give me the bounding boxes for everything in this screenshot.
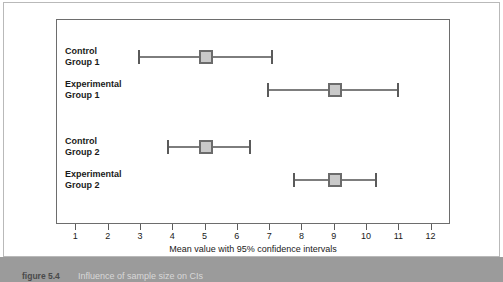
x-tick [108, 224, 109, 230]
x-tick [172, 224, 173, 230]
plot-frame: ControlGroup 1ExperimentalGroup 1Control… [56, 19, 450, 224]
error-bar [293, 171, 377, 189]
x-tick [269, 224, 270, 230]
x-tick [75, 224, 76, 230]
x-tick-label: 11 [394, 231, 403, 241]
x-tick-label: 9 [331, 231, 336, 241]
mean-marker [199, 140, 213, 154]
category-label: ExperimentalGroup 2 [65, 169, 122, 191]
x-tick [431, 224, 432, 230]
error-bar [138, 48, 274, 66]
figure-panel: ControlGroup 1ExperimentalGroup 1Control… [3, 2, 500, 257]
x-tick-label: 8 [299, 231, 304, 241]
category-label-line1: Control [65, 46, 97, 56]
error-bar [167, 138, 251, 156]
category-label-line1: Experimental [65, 169, 122, 179]
error-bar-cap-low [267, 83, 269, 97]
category-label: ExperimentalGroup 1 [65, 79, 122, 101]
x-tick-label: 1 [73, 231, 78, 241]
x-axis-title: Mean value with 95% confidence intervals [56, 244, 450, 254]
figure-caption-text: Influence of sample size on CIs [78, 271, 203, 281]
error-bar [267, 81, 399, 99]
x-tick [366, 224, 367, 230]
x-tick-label: 6 [234, 231, 239, 241]
category-label-line2: Group 1 [65, 90, 122, 101]
category-label-line2: Group 2 [65, 147, 100, 158]
x-tick-label: 7 [267, 231, 272, 241]
x-tick-label: 12 [426, 231, 436, 241]
error-bar-cap-low [167, 140, 169, 154]
x-axis: Mean value with 95% confidence intervals… [56, 224, 450, 258]
mean-marker [328, 83, 342, 97]
error-bar-cap-low [138, 50, 140, 64]
x-tick [301, 224, 302, 230]
category-label-line1: Experimental [65, 79, 122, 89]
x-tick [334, 224, 335, 230]
mean-marker [199, 50, 213, 64]
error-bar-cap-low [293, 173, 295, 187]
category-label-line1: Control [65, 136, 97, 146]
error-bar-cap-high [249, 140, 251, 154]
x-tick [398, 224, 399, 230]
x-tick [237, 224, 238, 230]
error-bar-cap-high [271, 50, 273, 64]
category-label: ControlGroup 1 [65, 46, 100, 68]
x-tick-label: 5 [202, 231, 207, 241]
category-label-line2: Group 1 [65, 57, 100, 68]
error-bar-cap-high [397, 83, 399, 97]
x-tick [140, 224, 141, 230]
figure-caption-bar: figure 5.4 Influence of sample size on C… [0, 257, 503, 282]
figure-caption-number: figure 5.4 [22, 271, 60, 281]
category-label-line2: Group 2 [65, 180, 122, 191]
x-tick [205, 224, 206, 230]
x-tick-label: 3 [137, 231, 142, 241]
error-bar-cap-high [375, 173, 377, 187]
x-tick-label: 10 [361, 231, 371, 241]
category-label: ControlGroup 2 [65, 136, 100, 158]
x-tick-label: 4 [170, 231, 175, 241]
mean-marker [328, 173, 342, 187]
plot-area: ControlGroup 1ExperimentalGroup 1Control… [57, 20, 449, 223]
x-tick-label: 2 [105, 231, 110, 241]
